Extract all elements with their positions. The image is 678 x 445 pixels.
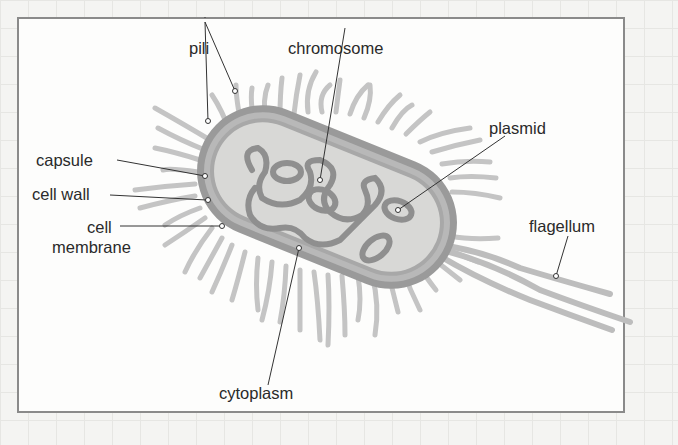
label-chromosome: chromosome [288,40,383,57]
label-cell-membrane-1: cell [87,219,112,236]
label-flagellum: flagellum [529,218,595,235]
label-cell-wall: cell wall [32,186,90,203]
label-pili: pili [189,40,209,57]
label-cytoplasm: cytoplasm [219,385,293,402]
label-plasmid: plasmid [489,120,546,137]
label-cell-membrane-2: membrane [52,239,131,256]
label-capsule: capsule [36,152,93,169]
flagella-group [438,245,630,330]
